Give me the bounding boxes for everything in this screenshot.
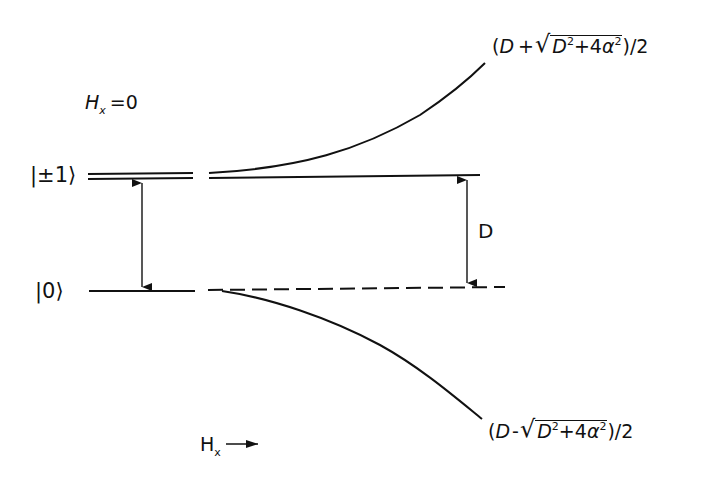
- alpha-exponent: 2: [599, 420, 606, 433]
- hx-subscript: x: [99, 104, 106, 117]
- upper-branch-formula: (D+√D2+4α2)/2: [492, 34, 648, 56]
- sqrt-content: D2+4α2: [535, 420, 607, 441]
- level-label-0: |0⟩: [35, 281, 64, 302]
- axis-symbol: H: [200, 433, 214, 455]
- paren-open: (: [488, 422, 495, 441]
- sqrt-icon: √: [535, 34, 550, 56]
- close-over-two: )/2: [622, 37, 648, 56]
- alpha-exponent: 2: [614, 35, 621, 48]
- level-pm1-line-b: [88, 178, 193, 179]
- energy-diagram-canvas: [0, 0, 727, 488]
- zero-field-levels: [88, 173, 195, 291]
- inner-d: D: [537, 420, 552, 442]
- lower-branch-curve: [222, 291, 482, 419]
- inner-d: D: [552, 35, 567, 57]
- plus-four: +4: [559, 420, 587, 442]
- inner-d-exponent: 2: [552, 420, 559, 433]
- upper-branch-curve: [209, 63, 485, 173]
- sqrt-content: D2+4α2: [550, 35, 622, 56]
- hx-axis-label: Hx: [200, 435, 221, 454]
- paren-open: (: [492, 37, 499, 56]
- close-over-two: )/2: [607, 422, 633, 441]
- middle-level-line: [209, 175, 480, 178]
- inner-d-exponent: 2: [567, 35, 574, 48]
- field-levels: [208, 63, 505, 444]
- zero-field-condition-label: Hx=0: [85, 93, 138, 112]
- plus-four: +4: [574, 35, 602, 57]
- sqrt-icon: √: [520, 419, 535, 441]
- alpha-symbol: α: [602, 35, 615, 57]
- var-d: D: [499, 37, 514, 56]
- alpha-symbol: α: [587, 420, 600, 442]
- hx-equals-zero: =0: [110, 91, 138, 113]
- var-d: D: [495, 422, 510, 441]
- operator-minus: -: [512, 422, 519, 441]
- axis-subscript: x: [214, 446, 221, 459]
- hx-symbol: H: [85, 91, 99, 113]
- operator-plus: +: [518, 37, 534, 56]
- lower-branch-formula: (D-√D2+4α2)/2: [488, 419, 633, 441]
- level-label-pm1: |±1⟩: [30, 165, 76, 186]
- gap-label-d: D: [478, 221, 493, 241]
- zero-level-dashed: [208, 287, 505, 290]
- level-pm1-line-a: [88, 173, 193, 174]
